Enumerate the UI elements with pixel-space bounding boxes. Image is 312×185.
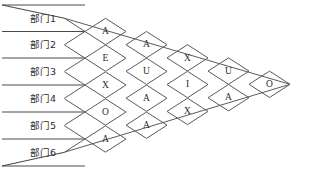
outer-edge-bottom — [65, 84, 291, 152]
rel-value-3-6: X — [184, 106, 191, 116]
department-label-5: 部门5 — [30, 120, 56, 131]
rel-value-2-3: E — [103, 53, 109, 63]
rel-value-2-5: I — [186, 79, 189, 89]
relationship-chart: 部门1部门2部门3部门4部门5部门6 AEXOAAUAAXIXUAO — [0, 0, 312, 185]
rel-value-1-6: O — [266, 79, 273, 89]
department-label-4: 部门4 — [30, 93, 56, 104]
rel-value-3-5: A — [143, 93, 150, 103]
rel-value-1-5: U — [225, 66, 232, 76]
rel-value-4-6: A — [143, 120, 150, 130]
rel-chart-svg: 部门1部门2部门3部门4部门5部门6 AEXOAAUAAXIXUAO — [0, 0, 312, 185]
department-label-2: 部门2 — [30, 39, 56, 50]
rel-value-1-2: A — [102, 26, 109, 36]
fan-upper-3 — [65, 72, 86, 85]
fan-upper-1 — [65, 18, 86, 31]
rel-value-3-4: X — [102, 80, 109, 90]
rel-value-5-6: A — [102, 134, 109, 144]
department-label-6: 部门6 — [30, 147, 56, 158]
department-row-rules — [2, 5, 85, 166]
department-label-1: 部门1 — [30, 13, 56, 24]
fan-upper-5 — [65, 126, 86, 139]
fan-lower-3 — [65, 85, 86, 98]
fan-lower-2 — [65, 58, 86, 71]
fan-lower-1 — [65, 32, 86, 45]
rel-value-4-5: O — [102, 107, 109, 117]
fan-upper-2 — [65, 45, 86, 58]
rel-value-1-4: X — [184, 53, 191, 63]
fan-lower-4 — [65, 112, 86, 125]
rel-value-1-3: A — [143, 39, 150, 49]
rel-value-2-6: A — [225, 92, 232, 102]
outer-edge-top — [65, 18, 291, 84]
fan-lower-5 — [65, 139, 86, 152]
fan-upper-4 — [65, 99, 86, 112]
department-label-3: 部门3 — [30, 66, 56, 77]
rel-value-2-4: U — [143, 66, 150, 76]
